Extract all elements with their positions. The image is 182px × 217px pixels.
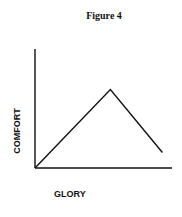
chart-plot	[0, 0, 182, 217]
data-line	[35, 90, 162, 169]
y-axis-label: COMFORT	[12, 108, 22, 154]
x-axis-label: GLORY	[54, 189, 86, 199]
